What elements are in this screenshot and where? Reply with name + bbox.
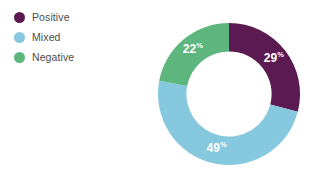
- legend-item-positive[interactable]: Positive: [14, 11, 74, 24]
- legend-item-label: Negative: [32, 51, 74, 64]
- donut-chart-figure: Positive Mixed Negative 29%49%22%: [0, 0, 317, 173]
- legend-item-label: Mixed: [32, 31, 61, 44]
- legend-item-label: Positive: [32, 11, 70, 24]
- legend-swatch-icon: [14, 32, 25, 43]
- donut-plot-area: 29%49%22%: [158, 23, 300, 165]
- donut-svg: 29%49%22%: [158, 23, 300, 165]
- chart-legend: Positive Mixed Negative: [14, 11, 74, 64]
- legend-item-negative[interactable]: Negative: [14, 51, 74, 64]
- legend-item-mixed[interactable]: Mixed: [14, 31, 74, 44]
- donut-slice[interactable]: [229, 23, 300, 112]
- donut-slice-group: [158, 23, 300, 165]
- legend-swatch-icon: [14, 12, 25, 23]
- legend-swatch-icon: [14, 52, 25, 63]
